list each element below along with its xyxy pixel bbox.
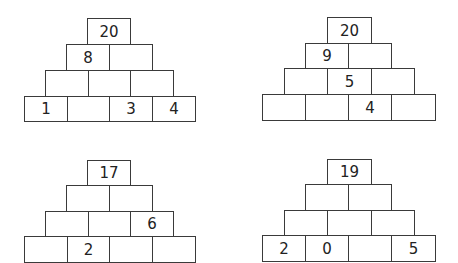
pyramid-cell <box>371 210 415 236</box>
pyramid-cell: 1 <box>24 96 68 122</box>
pyramid-cell: 19 <box>327 159 372 185</box>
pyramid-cell <box>130 70 174 97</box>
pyramid-cell: 20 <box>87 18 131 45</box>
pyramid-cell <box>348 184 392 211</box>
pyramid-cell <box>262 94 306 121</box>
pyramid-cell <box>109 185 153 212</box>
pyramid-cell: 4 <box>348 94 392 121</box>
pyramid-cell: 4 <box>152 96 196 122</box>
pyramid-cell <box>88 70 131 97</box>
pyramid-cell: 2 <box>67 236 110 263</box>
pyramid-cell: 9 <box>305 43 349 69</box>
pyramid-cell <box>305 94 349 121</box>
pyramid-cell <box>45 211 89 237</box>
pyramid-cell <box>24 236 68 263</box>
pyramid-cell <box>284 210 328 236</box>
pyramid-cell: 17 <box>87 160 131 186</box>
pyramid-cell <box>391 94 436 121</box>
pyramid-cell: 8 <box>66 44 110 71</box>
pyramid-cell: 3 <box>109 96 153 122</box>
pyramid-cell <box>305 184 349 211</box>
pyramid-cell: 5 <box>327 68 372 95</box>
pyramid-cell <box>348 43 392 69</box>
pyramid-cell <box>327 210 372 236</box>
pyramid-cell: 6 <box>130 211 174 237</box>
pyramid-cell: 20 <box>327 17 372 44</box>
pyramid-cell <box>109 236 153 263</box>
pyramid-cell <box>45 70 89 97</box>
pyramid-cell: 5 <box>391 235 436 262</box>
pyramid-cell <box>66 185 110 212</box>
pyramid-cell <box>109 44 153 71</box>
pyramid-cell <box>67 96 110 122</box>
pyramid-cell <box>348 235 392 262</box>
pyramid-cell: 2 <box>262 235 306 262</box>
pyramid-cell <box>152 236 196 263</box>
pyramid-cell <box>371 68 415 95</box>
pyramid-cell: 0 <box>305 235 349 262</box>
pyramid-cell <box>284 68 328 95</box>
pyramid-cell <box>88 211 131 237</box>
